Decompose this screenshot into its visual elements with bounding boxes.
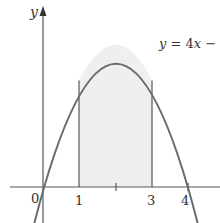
tick-label-3: 3: [147, 193, 155, 208]
y-axis-arrow-icon: [40, 6, 47, 16]
equation-mid: = 4: [166, 36, 193, 51]
tick-label-4: 4: [181, 193, 189, 208]
area-under-parabola-chart: y 0 1 3 4 y = 4x − x2: [0, 0, 220, 223]
y-axis-label: y: [29, 4, 39, 20]
equation-label: y = 4x − x2: [158, 34, 220, 51]
origin-label: 0: [31, 191, 39, 206]
equation-minus: −: [201, 36, 220, 51]
shaded-area: [79, 45, 152, 187]
tick-label-1: 1: [75, 193, 83, 208]
